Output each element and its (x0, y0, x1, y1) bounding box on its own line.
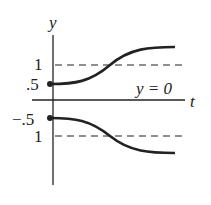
equilibrium-label: y = 0 (136, 80, 172, 97)
y-axis-label: y (49, 14, 57, 31)
tick-label-upper-half: .5 (26, 76, 39, 93)
upper-initial-point (47, 81, 53, 87)
t-axis-label: t (190, 93, 195, 110)
tick-label-upper-one: 1 (34, 56, 43, 73)
tick-label-lower-half: −.5 (12, 111, 34, 128)
diagram: y t 1 .5 −.5 1 y = 0 (0, 0, 211, 205)
phase-plot (0, 0, 211, 205)
lower-initial-point (47, 115, 53, 121)
tick-label-lower-one: 1 (34, 128, 43, 145)
